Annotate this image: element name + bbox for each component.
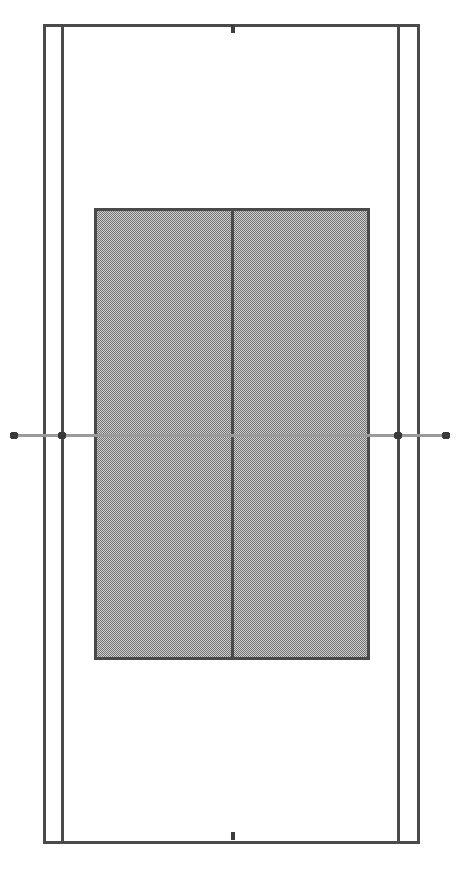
net-post-outer-right-icon [442,432,450,440]
net-post-outer-left-icon [10,432,18,440]
court-svg-canvas [0,0,458,874]
tennis-court-diagram [0,0,458,874]
net-post-inner-left-icon [58,432,66,440]
net-post-inner-right-icon [394,432,402,440]
